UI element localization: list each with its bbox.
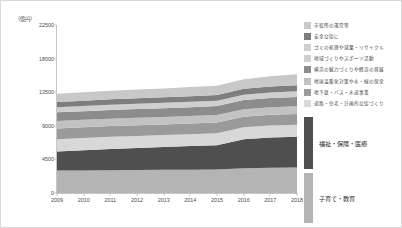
x-axis-tick-mark xyxy=(163,193,164,196)
legend-item[interactable]: 道路・住宅・計画的な街づくり xyxy=(304,99,384,107)
x-axis-tick-label: 2014 xyxy=(184,197,196,203)
legend-swatch xyxy=(304,117,313,169)
legend-label: 横浜の魅力づくりや経済の発展 xyxy=(314,67,384,72)
legend-label: 福祉・保険・医療 xyxy=(319,141,367,146)
y-axis-tick-label: 18000 xyxy=(39,56,54,62)
y-axis-tick-label: 13500 xyxy=(39,89,54,95)
x-axis-tick-mark xyxy=(270,193,271,196)
y-axis: 045009000135001800022500 xyxy=(1,25,54,193)
y-axis-tick-mark xyxy=(53,193,56,194)
x-axis-tick-label: 2013 xyxy=(158,197,170,203)
legend-swatch xyxy=(304,22,311,29)
x-axis-tick-mark xyxy=(83,193,84,196)
legend-label: 安全な街に xyxy=(314,34,339,39)
x-axis-tick-label: 2016 xyxy=(238,197,250,203)
area-series xyxy=(57,167,297,193)
legend-item[interactable]: ゴミの処理や減量・リサイクル xyxy=(304,43,384,51)
stacked-area-plot xyxy=(57,25,297,193)
y-axis-tick-mark xyxy=(53,125,56,126)
legend-swatch xyxy=(304,66,311,73)
legend-label: ゴミの処理や減量・リサイクル xyxy=(314,45,384,50)
legend-swatch xyxy=(304,100,311,107)
x-axis-tick-label: 2011 xyxy=(105,197,117,203)
x-axis-tick-mark xyxy=(110,193,111,196)
legend-item[interactable]: 地球温暖化対策や水・緑の保全 xyxy=(304,77,384,85)
y-axis-tick-mark xyxy=(53,58,56,59)
area-series-group xyxy=(57,25,297,193)
legend-label: 子育て・教育 xyxy=(319,196,355,201)
x-axis-tick-label: 2009 xyxy=(51,197,63,203)
chart-legend: 市役所の運営等安全な街にゴミの処理や減量・リサイクル地域づくりやスポーツ活動横浜… xyxy=(304,21,400,211)
legend-swatch xyxy=(304,78,311,85)
legend-swatch xyxy=(304,44,311,51)
legend-item[interactable]: 安全な街に xyxy=(304,32,339,40)
y-axis-tick-mark xyxy=(53,25,56,26)
x-axis-tick-label: 2017 xyxy=(264,197,276,203)
x-axis-tick-mark xyxy=(297,193,298,196)
x-axis-line xyxy=(56,193,298,194)
chart-frame: （億円） 045009000135001800022500 2009201020… xyxy=(0,0,402,228)
x-axis-tick-mark xyxy=(217,193,218,196)
legend-label: 地下鉄・バス・水道事業 xyxy=(314,90,369,95)
y-axis-unit-label: （億円） xyxy=(15,15,35,22)
legend-item[interactable]: 地域づくりやスポーツ活動 xyxy=(304,55,374,63)
legend-label: 市役所の運営等 xyxy=(314,23,349,28)
legend-item-major[interactable]: 子育て・教育 xyxy=(304,173,355,223)
legend-label: 道路・住宅・計画的な街づくり xyxy=(314,101,384,106)
y-axis-tick-label: 22500 xyxy=(39,22,54,28)
legend-label: 地域づくりやスポーツ活動 xyxy=(314,56,374,61)
x-axis: 2009201020112012201320142015201620172018 xyxy=(57,195,297,209)
legend-swatch xyxy=(304,173,313,223)
x-axis-tick-mark xyxy=(57,193,58,196)
legend-swatch xyxy=(304,55,311,62)
legend-item[interactable]: 地下鉄・バス・水道事業 xyxy=(304,88,369,96)
legend-item-major[interactable]: 福祉・保険・医療 xyxy=(304,117,367,169)
legend-item[interactable]: 横浜の魅力づくりや経済の発展 xyxy=(304,66,384,74)
x-axis-tick-label: 2018 xyxy=(291,197,303,203)
y-axis-tick-mark xyxy=(53,92,56,93)
x-axis-tick-mark xyxy=(190,193,191,196)
x-axis-tick-label: 2012 xyxy=(131,197,143,203)
legend-swatch xyxy=(304,33,311,40)
x-axis-tick-label: 2015 xyxy=(211,197,223,203)
y-axis-tick-mark xyxy=(53,159,56,160)
x-axis-tick-mark xyxy=(137,193,138,196)
legend-swatch xyxy=(304,89,311,96)
legend-label: 地球温暖化対策や水・緑の保全 xyxy=(314,79,384,84)
x-axis-tick-mark xyxy=(243,193,244,196)
x-axis-tick-label: 2010 xyxy=(78,197,90,203)
legend-item[interactable]: 市役所の運営等 xyxy=(304,21,349,29)
